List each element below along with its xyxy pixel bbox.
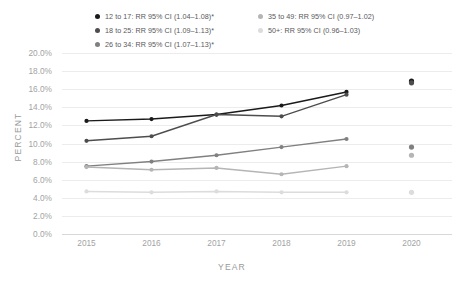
y-axis-tick-label: 4.0% [33,193,52,203]
series-line [87,139,347,166]
y-axis-tick-labels: 0.0%2.0%4.0%6.0%8.0%10.0%12.0%14.0%16.0%… [0,53,56,234]
data-point[interactable] [149,168,153,172]
data-point[interactable] [149,190,153,194]
legend-label: 18 to 25: RR 95% CI (1.09–1.13)* [105,26,214,35]
y-axis-tick-label: 20.0% [28,48,52,58]
y-axis-tick-label: 18.0% [28,66,52,76]
data-point[interactable] [84,189,88,193]
legend-label: 26 to 34: RR 95% CI (1.07–1.13)* [105,40,214,49]
legend-item-12-to-17[interactable]: 12 to 17: RR 95% CI (1.04–1.08)* [95,10,214,23]
y-axis-tick-label: 16.0% [28,84,52,94]
y-axis-tick-label: 14.0% [28,102,52,112]
data-point[interactable] [409,145,414,150]
legend-marker-icon [258,14,263,19]
data-point[interactable] [279,103,283,107]
chart-legend: 12 to 17: RR 95% CI (1.04–1.08)* 18 to 2… [95,10,455,50]
legend-label: 12 to 17: RR 95% CI (1.04–1.08)* [105,12,214,21]
y-axis-tick-label: 6.0% [33,175,52,185]
data-point[interactable] [409,80,414,85]
y-axis-tick-label: 10.0% [28,139,52,149]
x-axis-title: YEAR [0,262,464,272]
data-point[interactable] [149,117,153,121]
legend-column-left: 12 to 17: RR 95% CI (1.04–1.08)* 18 to 2… [95,10,214,52]
data-point[interactable] [344,190,348,194]
data-point[interactable] [409,190,414,195]
data-point[interactable] [149,160,153,164]
y-axis-tick-label: 0.0% [33,229,52,239]
plot-area [62,53,452,234]
x-axis-tick-label: 2015 [77,238,95,248]
legend-marker-icon [95,42,100,47]
x-axis-tick-labels: 201520162017201820192020 [62,238,452,252]
legend-column-right: 35 to 49: RR 95% CI (0.97–1.02) 50+: RR … [258,10,374,38]
data-point[interactable] [344,93,348,97]
data-point[interactable] [279,145,283,149]
data-point[interactable] [84,139,88,143]
data-point[interactable] [214,112,218,116]
legend-marker-icon [258,28,263,33]
legend-item-18-to-25[interactable]: 18 to 25: RR 95% CI (1.09–1.13)* [95,24,214,37]
legend-item-35-to-49[interactable]: 35 to 49: RR 95% CI (0.97–1.02) [258,10,374,23]
data-point[interactable] [84,165,88,169]
legend-label: 35 to 49: RR 95% CI (0.97–1.02) [268,12,374,21]
data-point[interactable] [279,190,283,194]
x-axis-tick-label: 2018 [272,238,290,248]
data-point[interactable] [344,137,348,141]
x-axis-tick-label: 2020 [402,238,420,248]
y-axis-tick-label: 12.0% [28,120,52,130]
data-point[interactable] [214,153,218,157]
data-point[interactable] [214,166,218,170]
data-point[interactable] [149,134,153,138]
series-layer [62,53,452,234]
data-point[interactable] [279,172,283,176]
x-axis-line [62,234,452,235]
series-line [87,95,347,141]
y-axis-tick-label: 2.0% [33,211,52,221]
legend-label: 50+: RR 95% CI (0.96–1.03) [268,26,360,35]
data-point[interactable] [279,114,283,118]
x-axis-tick-label: 2016 [142,238,160,248]
data-point[interactable] [214,189,218,193]
data-point[interactable] [344,164,348,168]
y-axis-tick-label: 8.0% [33,157,52,167]
line-chart: 12 to 17: RR 95% CI (1.04–1.08)* 18 to 2… [0,0,464,288]
legend-item-26-to-34[interactable]: 26 to 34: RR 95% CI (1.07–1.13)* [95,38,214,51]
legend-marker-icon [95,14,100,19]
legend-item-50-plus[interactable]: 50+: RR 95% CI (0.96–1.03) [258,24,374,37]
data-point[interactable] [409,153,414,158]
legend-marker-icon [95,28,100,33]
x-axis-tick-label: 2017 [207,238,225,248]
x-axis-tick-label: 2019 [337,238,355,248]
data-point[interactable] [84,119,88,123]
